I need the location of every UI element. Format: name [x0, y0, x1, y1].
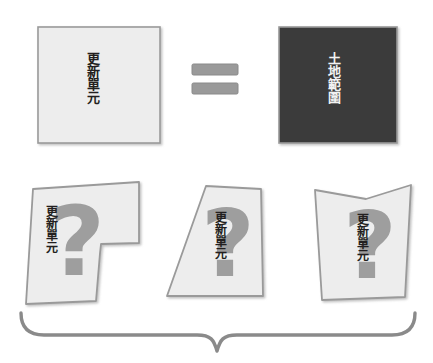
top-right-box-label: 土地範圍: [327, 52, 340, 104]
diagram-graphics: ? ? ?: [0, 0, 433, 363]
question-mark-a: ?: [49, 186, 105, 298]
equals-operator-icon: [192, 64, 238, 94]
diagram-canvas: ? ? ? 更新單元 土地範圍 更新單元 更新單元 更新單元: [0, 0, 433, 363]
question-mark-c: ?: [343, 193, 396, 300]
parcel-label-a: 更新單元: [44, 205, 56, 253]
parcel-label-b: 更新單元: [213, 211, 225, 259]
equals-bar-top: [192, 64, 238, 75]
grouping-brace: [21, 313, 415, 351]
equals-bar-bottom: [192, 83, 238, 94]
parcel-label-c: 更新單元: [355, 213, 367, 261]
question-mark-b: ?: [201, 191, 254, 298]
top-left-box-label: 更新單元: [86, 52, 99, 104]
